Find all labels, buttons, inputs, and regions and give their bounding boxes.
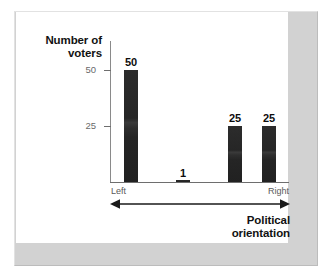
double-arrow-icon bbox=[110, 197, 290, 211]
x-axis-title-line-2: orientation bbox=[180, 227, 290, 240]
y-axis-tick-label-25: 25 bbox=[62, 121, 96, 131]
x-axis-line bbox=[110, 182, 289, 183]
bar-1[interactable] bbox=[124, 70, 138, 182]
bar-3[interactable] bbox=[228, 126, 242, 182]
y-axis-title: Number of voters bbox=[24, 34, 102, 60]
y-axis-title-line-2: voters bbox=[24, 47, 102, 60]
x-axis-title: Political orientation bbox=[180, 214, 290, 240]
y-axis-tick-50 bbox=[104, 70, 111, 71]
bar-value-4: 25 bbox=[249, 112, 289, 124]
x-axis-label-left: Left bbox=[111, 186, 161, 196]
bar-4[interactable] bbox=[262, 126, 276, 182]
y-axis-tick-label-50: 50 bbox=[62, 65, 96, 75]
y-axis-tick-25 bbox=[104, 126, 111, 127]
bar-value-2: 1 bbox=[163, 167, 203, 179]
x-axis-title-line-1: Political bbox=[180, 214, 290, 227]
bar-value-1: 50 bbox=[111, 56, 151, 68]
bar-2[interactable] bbox=[176, 180, 190, 182]
figure-root: Number of voters 50 25 50 1 25 25 Left R… bbox=[0, 0, 332, 277]
y-axis-title-line-1: Number of bbox=[24, 34, 102, 47]
x-axis-label-right: Right bbox=[239, 186, 289, 196]
